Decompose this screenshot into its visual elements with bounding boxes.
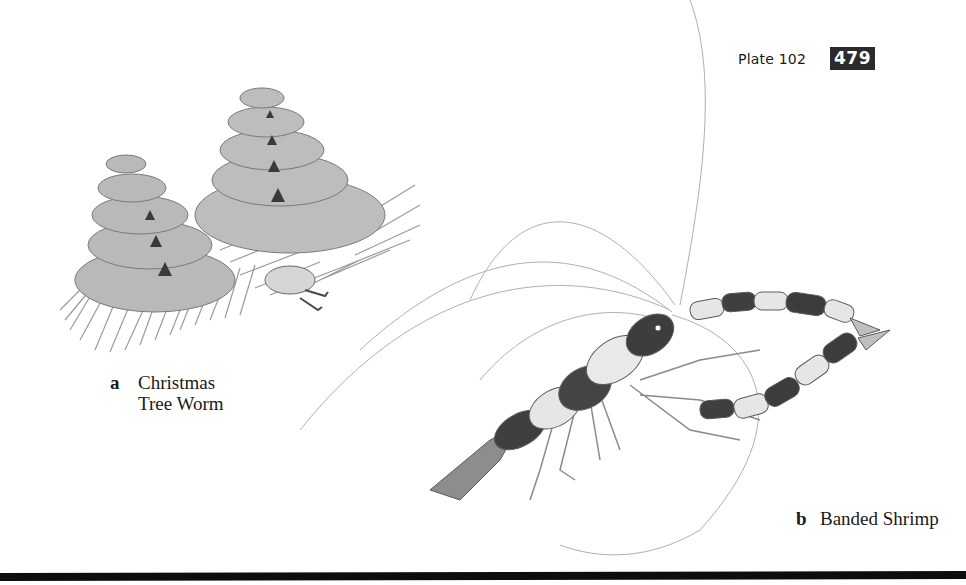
caption-banded-shrimp: bBanded Shrimp: [796, 508, 939, 529]
plate-illustrations: [0, 0, 966, 585]
figure-letter-b: b: [796, 508, 818, 529]
page-header: Plate 102 479: [738, 47, 875, 70]
book-page: Plate 102 479 aChristmas Tree Worm bBand…: [0, 0, 966, 585]
christmas-tree-worm-icon: [60, 88, 420, 352]
figure-name-line1: Christmas: [132, 372, 215, 393]
page-number-badge: 479: [830, 47, 875, 70]
plate-label: Plate 102: [738, 51, 806, 67]
figure-letter-a: a: [110, 372, 132, 393]
figure-name: Banded Shrimp: [818, 508, 939, 529]
banded-shrimp-icon: [300, 0, 890, 555]
figure-name-line2: Tree Worm: [110, 393, 224, 414]
caption-christmas-tree-worm: aChristmas Tree Worm: [110, 372, 224, 414]
